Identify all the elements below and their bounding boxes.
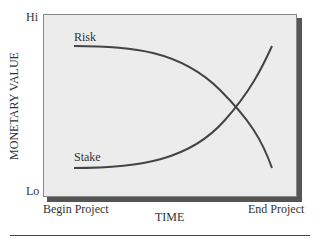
x-tick-begin: Begin Project xyxy=(43,202,109,217)
y-axis-label: MONETARY VALUE xyxy=(7,52,22,160)
divider xyxy=(10,235,310,236)
risk-label: Risk xyxy=(74,30,96,45)
x-tick-end: End Project xyxy=(248,202,304,217)
stake-label: Stake xyxy=(74,150,101,165)
risk-curve xyxy=(74,46,272,168)
x-axis-label: TIME xyxy=(155,210,184,225)
stake-curve xyxy=(74,46,272,168)
y-tick-lo: Lo xyxy=(26,184,39,199)
y-tick-hi: Hi xyxy=(26,10,38,25)
